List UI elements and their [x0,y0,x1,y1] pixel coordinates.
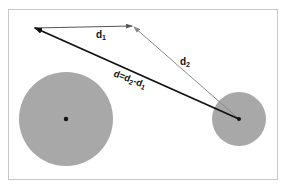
small-body-center-dot [237,117,241,121]
vector-diagram: d1 d2 d=d2-d1 [0,0,285,187]
large-body-center-dot [64,117,68,121]
